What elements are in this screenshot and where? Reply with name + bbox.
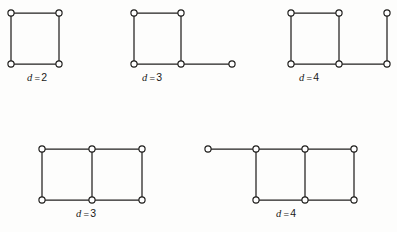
figure-label-d-3-top: d=3	[142, 72, 162, 84]
graph-vertex	[39, 146, 45, 152]
label-value: 3	[90, 207, 96, 219]
graph-vertex	[288, 61, 294, 67]
graph-vertex	[131, 61, 137, 67]
graph-vertex	[56, 61, 62, 67]
graph-vertex	[351, 197, 357, 203]
graph-vertex	[336, 61, 342, 67]
graph-vertex	[384, 61, 390, 67]
graph-vertex	[302, 197, 308, 203]
figure-label-d-3-bottom: d=3	[76, 208, 96, 220]
graph-vertex	[253, 146, 259, 152]
figure-label-d-4-bottom: d=4	[276, 208, 296, 220]
graph-vertex	[8, 61, 14, 67]
graph-vertex	[39, 197, 45, 203]
label-value: 2	[41, 71, 47, 83]
label-value: 3	[156, 71, 162, 83]
label-value: 4	[313, 71, 319, 83]
graph-vertex	[131, 10, 137, 16]
graph-vertex	[139, 197, 145, 203]
graph-vertex	[384, 10, 390, 16]
graph-vertex	[205, 146, 211, 152]
graph-vertex	[139, 146, 145, 152]
graph-vertex	[178, 10, 184, 16]
edges-layer	[11, 13, 387, 200]
figure-label-d-4-top: d=4	[299, 72, 319, 84]
graph-vertex	[8, 10, 14, 16]
graph-vertex	[253, 197, 259, 203]
nodes-layer	[8, 10, 390, 203]
graph-vertex	[288, 10, 294, 16]
graph-vertex	[89, 146, 95, 152]
graph-vertex	[229, 61, 235, 67]
graph-vertex	[178, 61, 184, 67]
graph-diagrams-canvas	[0, 0, 397, 232]
figure-plate: d=2 d=3 d=4 d=3 d=4	[0, 0, 397, 232]
graph-vertex	[56, 10, 62, 16]
graph-vertex	[302, 146, 308, 152]
graph-vertex	[351, 146, 357, 152]
label-value: 4	[290, 207, 296, 219]
graph-vertex	[336, 10, 342, 16]
figure-label-d-2: d=2	[27, 72, 47, 84]
graph-vertex	[89, 197, 95, 203]
